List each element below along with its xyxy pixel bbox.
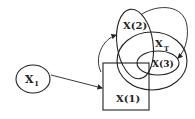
x-t-label: X: [155, 38, 163, 49]
arrow-x1-to-x2: [98, 35, 116, 72]
x-3-label: X(3): [152, 59, 174, 69]
x-i-subscript: I: [35, 79, 38, 88]
x-2-label: X(2): [123, 20, 147, 31]
x-1-label: X(1): [116, 93, 140, 104]
state-diagram: X I X(1) X(2) X T X(3): [0, 0, 195, 119]
node-x-i: X I: [16, 65, 50, 93]
arrow-xi-to-x1: [51, 75, 102, 88]
x-i-label: X: [25, 73, 34, 86]
